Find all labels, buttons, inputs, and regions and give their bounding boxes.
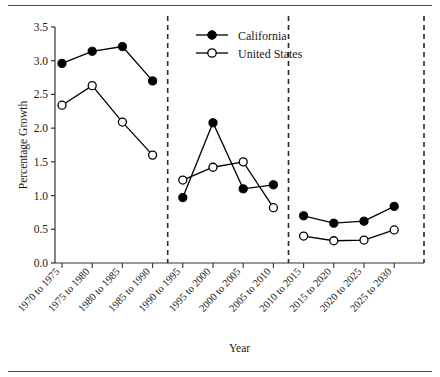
data-point-california bbox=[209, 119, 217, 127]
data-point-california bbox=[149, 77, 157, 85]
data-point-united-states bbox=[300, 232, 308, 240]
line-chart: 0.00.51.01.52.02.53.03.5Percentage Growt… bbox=[0, 0, 440, 377]
data-point-united-states bbox=[118, 118, 126, 126]
series-line-california-segment-3 bbox=[304, 206, 395, 223]
data-point-california bbox=[390, 202, 398, 210]
y-axis-title: Percentage Growth bbox=[17, 101, 30, 190]
data-point-united-states bbox=[179, 176, 187, 184]
y-axis-tick-label: 3.5 bbox=[34, 21, 49, 33]
data-point-united-states bbox=[360, 236, 368, 244]
series-line-united-states-segment-1 bbox=[62, 86, 153, 155]
y-axis-tick-label: 2.0 bbox=[34, 122, 49, 134]
figure-container: 0.00.51.01.52.02.53.03.5Percentage Growt… bbox=[0, 0, 440, 377]
data-point-united-states bbox=[209, 163, 217, 171]
series-line-california-segment-1 bbox=[62, 47, 153, 81]
data-point-california bbox=[360, 217, 368, 225]
series-line-united-states-segment-3 bbox=[304, 230, 395, 241]
data-point-united-states bbox=[269, 204, 277, 212]
data-point-united-states bbox=[149, 151, 157, 159]
y-axis-tick-label: 2.5 bbox=[34, 88, 49, 100]
x-axis-title: Year bbox=[229, 342, 250, 354]
data-point-california bbox=[300, 212, 308, 220]
data-point-united-states bbox=[239, 158, 247, 166]
y-axis-tick-label: 1.0 bbox=[34, 190, 49, 202]
legend-label-california: California bbox=[238, 29, 287, 43]
legend-marker-united-states bbox=[208, 49, 216, 57]
y-axis-tick-label: 3.0 bbox=[34, 55, 49, 67]
data-point-united-states bbox=[88, 82, 96, 90]
data-point-california bbox=[330, 219, 338, 227]
data-point-united-states bbox=[390, 226, 398, 234]
data-point-california bbox=[118, 42, 126, 50]
data-point-california bbox=[239, 185, 247, 193]
y-axis-tick-label: 0.0 bbox=[34, 257, 49, 269]
data-point-united-states bbox=[330, 237, 338, 245]
data-point-california bbox=[58, 59, 66, 67]
series-line-united-states-segment-2 bbox=[183, 162, 274, 208]
data-point-california bbox=[88, 47, 96, 55]
legend-marker-california bbox=[208, 31, 217, 40]
data-point-california bbox=[179, 193, 187, 201]
legend-label-united-states: United States bbox=[238, 47, 303, 61]
data-point-united-states bbox=[58, 101, 66, 109]
y-axis-tick-label: 0.5 bbox=[34, 223, 49, 235]
y-axis-tick-label: 1.5 bbox=[34, 156, 49, 168]
data-point-california bbox=[269, 181, 277, 189]
